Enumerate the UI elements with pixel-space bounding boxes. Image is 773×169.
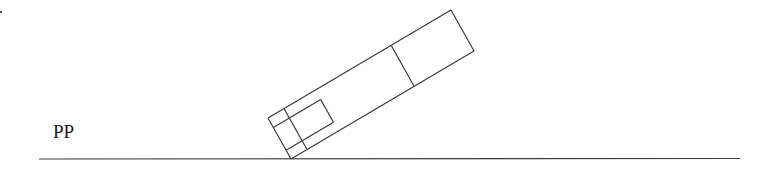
box-inner-lower-line [286,122,333,150]
box-inner-upper-line [273,100,320,128]
picture-plane-label: PP [53,121,74,142]
box-outer-top-edge [268,10,451,118]
box-outer-right-edge [451,10,474,51]
box-inner-right-edge [321,100,334,123]
box-outer-bottom-edge [291,51,474,159]
edge-speck [0,11,2,13]
box-divider [391,45,414,86]
diagram-canvas: PP [0,0,773,169]
tilted-box [268,10,474,159]
picture-plane-line [39,159,740,160]
